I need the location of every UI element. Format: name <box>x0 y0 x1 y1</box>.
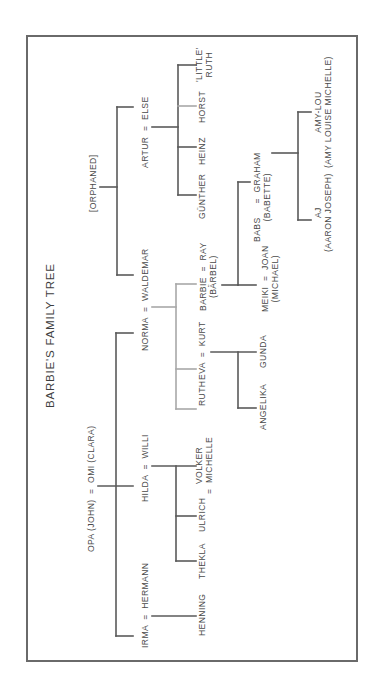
node-eva-kurt: EVA = KURT <box>197 321 207 380</box>
node-norma-waldemar: NORMA = WALDEMAR <box>140 248 150 351</box>
node-thekla: THEKLA <box>197 543 207 579</box>
node-aj: AJ (AARON JOSEPH) <box>313 173 333 252</box>
node-horst: HORST <box>197 91 207 123</box>
node-little-ruth: 'LITTLE' RUTH <box>194 47 214 82</box>
node-amy-lou: AMY-LOU (AMY LOUISE MICHELLE) <box>313 56 333 168</box>
node-volker-michelle: VOLKER = MICHELLE <box>194 437 214 494</box>
node-ruth: RUTH <box>197 381 207 406</box>
node-ulrich: ULRICH <box>197 498 207 532</box>
node-orphaned: [ORPHANED] <box>88 155 98 212</box>
diagram-title: BARBIE'S FAMILY TREE <box>45 263 55 408</box>
node-henning: HENNING <box>197 594 207 636</box>
node-gunda: GUNDA <box>258 335 268 368</box>
node-barbie-ray: BARBIE = RAY (BÄRBEL) <box>198 242 218 311</box>
node-meiki-joan: MEIKI = JOAN (MICHAEL) <box>260 246 280 313</box>
family-tree-canvas: BARBIE'S FAMILY TREE [ORPHANED] OPA (JOH… <box>0 0 384 696</box>
node-hilda-willi: HILDA = WILLI <box>140 434 150 502</box>
node-angelika: ANGELIKA <box>258 384 268 430</box>
node-heinz: HEINZ <box>197 137 207 165</box>
node-irma-hermann: IRMA = HERMANN <box>140 563 150 648</box>
node-opa-omi: OPA (JOHN) = OMI (CLARA) <box>86 425 96 552</box>
node-gunther: GÜNTHER <box>197 174 207 219</box>
node-artur-else: ARTUR = ELSE <box>140 96 150 168</box>
node-babs-graham: BABS = GRAHAM (BABETTE) <box>252 152 272 242</box>
